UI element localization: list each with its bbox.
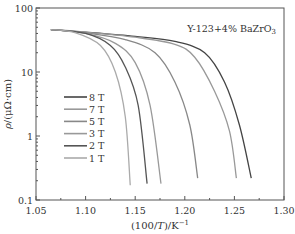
x-tick-label: 1.10: [75, 205, 96, 216]
x-tick-label: 1.05: [25, 205, 46, 216]
y-tick-label: 100: [15, 3, 33, 14]
series-curves: [51, 30, 251, 186]
x-tick-label: 1.15: [125, 205, 146, 216]
y-tick-label: 1: [27, 131, 33, 142]
legend-label: 5 T: [89, 116, 105, 127]
legend: 8 T7 T5 T3 T2 T1 T: [64, 92, 105, 164]
series-curve: [51, 30, 251, 179]
series-curve: [51, 30, 198, 179]
legend-label: 8 T: [89, 92, 105, 103]
x-axis: 1.051.101.151.201.251.30: [25, 196, 294, 216]
series-curve: [51, 30, 237, 179]
y-tick-label: 0.1: [18, 195, 33, 206]
x-tick-label: 1.25: [224, 205, 245, 216]
legend-label: 2 T: [89, 140, 105, 151]
x-axis-label: (100/T)/K−1: [131, 219, 189, 231]
y-axis-label: ρ/(μΩ·cm): [2, 79, 13, 130]
x-tick-label: 1.20: [174, 205, 195, 216]
x-tick-label: 1.30: [273, 205, 294, 216]
y-tick-label: 10: [21, 67, 33, 78]
legend-label: 3 T: [89, 128, 105, 139]
legend-label: 1 T: [89, 153, 105, 164]
resistivity-chart: 0.1110100 1.051.101.151.201.251.30 8 T7 …: [0, 0, 295, 234]
legend-label: 7 T: [89, 104, 105, 115]
annotation-label: Y-123+4% BaZrO3: [186, 23, 276, 36]
